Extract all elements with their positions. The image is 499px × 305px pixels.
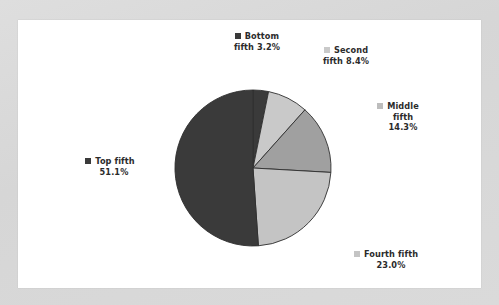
- label-text-top-fifth-value: 51.1%: [62, 167, 158, 178]
- pie-slice-top-fifth: [175, 90, 258, 246]
- legend-swatch-bottom-fifth: [235, 33, 241, 39]
- slice-label-second-fifth: Second fifth 8.4%: [304, 45, 388, 66]
- label-bottom-fifth-line1: Bottom: [214, 31, 300, 42]
- label-text-fourth-fifth-value: 23.0%: [334, 260, 438, 271]
- legend-swatch-top-fifth: [85, 158, 91, 164]
- label-text-top-fifth-name: Top fifth: [95, 156, 134, 166]
- label-text-bottom-fifth-value: fifth 3.2%: [214, 42, 300, 53]
- label-text-fourth-fifth-name: Fourth fifth: [364, 249, 418, 259]
- slice-label-bottom-fifth: Bottom fifth 3.2%: [214, 31, 300, 52]
- label-text-middle-fifth-name2: fifth: [356, 112, 440, 123]
- label-text-middle-fifth-name: Middle: [387, 101, 419, 111]
- pie-slices: [175, 90, 331, 246]
- legend-swatch-second-fifth: [324, 47, 330, 53]
- label-text-second-fifth-value: fifth 8.4%: [304, 56, 388, 67]
- chart-frame: Bottom fifth 3.2% Second fifth 8.4% Midd…: [0, 0, 499, 305]
- label-fourth-fifth-line1: Fourth fifth: [334, 249, 438, 260]
- label-second-fifth-line1: Second: [304, 45, 388, 56]
- label-text-bottom-fifth-name: Bottom: [245, 31, 279, 41]
- label-middle-fifth-line1: Middle: [356, 101, 440, 112]
- pie-slice-fourth-fifth: [253, 168, 331, 246]
- label-top-fifth-line1: Top fifth: [62, 156, 158, 167]
- label-text-middle-fifth-value: 14.3%: [356, 122, 440, 133]
- slice-label-middle-fifth: Middle fifth 14.3%: [356, 101, 440, 133]
- slice-label-top-fifth: Top fifth 51.1%: [62, 156, 158, 177]
- legend-swatch-fourth-fifth: [354, 251, 360, 257]
- label-text-second-fifth-name: Second: [334, 45, 368, 55]
- slice-label-fourth-fifth: Fourth fifth 23.0%: [334, 249, 438, 270]
- legend-swatch-middle-fifth: [377, 103, 383, 109]
